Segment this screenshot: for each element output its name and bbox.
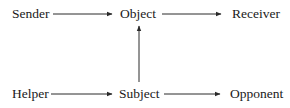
node-sender: Sender — [12, 6, 50, 22]
node-helper: Helper — [12, 86, 49, 102]
node-object: Object — [120, 6, 156, 22]
node-receiver: Receiver — [232, 6, 280, 22]
actantial-diagram: Sender Object Receiver Helper Subject Op… — [0, 0, 290, 108]
node-subject: Subject — [119, 86, 160, 102]
node-opponent: Opponent — [230, 86, 283, 102]
